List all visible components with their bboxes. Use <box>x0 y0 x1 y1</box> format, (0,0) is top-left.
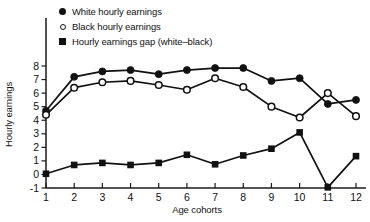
data-point-open-circle <box>71 84 78 91</box>
series-line <box>46 68 356 111</box>
data-point-filled-circle <box>71 73 78 80</box>
data-point-filled-circle <box>99 68 106 75</box>
filled-square-icon <box>57 36 68 47</box>
data-point-filled-square <box>353 153 360 160</box>
data-point-open-circle <box>268 103 275 110</box>
x-tick-label: 11 <box>322 191 333 203</box>
data-point-filled-square <box>99 160 106 167</box>
data-point-filled-square <box>268 145 275 152</box>
data-point-open-circle <box>212 75 219 82</box>
x-tick-label: 8 <box>240 191 246 203</box>
data-point-filled-circle <box>296 75 303 82</box>
data-point-filled-square <box>325 184 332 191</box>
y-tick-label: 6 <box>33 87 39 99</box>
x-tick-label: 5 <box>156 191 162 203</box>
chart-figure: White hourly earnings Black hourly earni… <box>0 0 370 222</box>
data-point-open-circle <box>155 82 162 89</box>
y-tick-label: 0 <box>33 168 39 180</box>
data-point-open-circle <box>296 114 303 121</box>
x-tick-label: 1 <box>43 191 49 203</box>
x-tick-label: 9 <box>269 191 275 203</box>
series-line <box>46 132 356 187</box>
legend-item-white: White hourly earnings <box>57 5 287 18</box>
x-tick-label: 12 <box>350 191 362 203</box>
x-tick-labels: 123456789101112 <box>43 191 362 203</box>
data-point-open-circle <box>184 86 191 93</box>
series-line <box>46 78 356 117</box>
data-point-filled-square <box>127 162 134 169</box>
data-point-filled-square <box>240 152 247 159</box>
y-tick-label: 4 <box>33 114 39 126</box>
data-series <box>43 75 360 121</box>
y-tick-labels: -1012345678 <box>30 60 40 194</box>
y-tick-label: -1 <box>30 182 39 194</box>
data-point-filled-circle <box>353 96 360 103</box>
open-circle-icon <box>57 21 68 32</box>
y-tick-label: 1 <box>33 154 39 166</box>
data-point-open-circle <box>43 112 50 119</box>
data-point-filled-square <box>43 170 50 177</box>
data-point-filled-circle <box>183 67 190 74</box>
data-point-filled-circle <box>240 65 247 72</box>
x-tick-label: 10 <box>294 191 306 203</box>
x-tick-label: 7 <box>212 191 218 203</box>
data-point-filled-square <box>296 129 303 136</box>
data-point-filled-square <box>184 151 191 158</box>
data-point-filled-square <box>155 160 162 167</box>
data-point-filled-circle <box>155 71 162 78</box>
data-point-filled-square <box>71 162 78 169</box>
data-point-open-circle <box>127 78 134 85</box>
data-point-filled-circle <box>324 100 331 107</box>
y-axis-title: Hourly earnings <box>0 65 11 79</box>
y-tick-label: 8 <box>33 60 39 72</box>
y-tick-label: 5 <box>33 100 39 112</box>
x-axis-title: Age cohorts <box>0 204 370 215</box>
x-tick-label: 2 <box>71 191 77 203</box>
data-point-filled-circle <box>212 65 219 72</box>
y-tick-label: 7 <box>33 73 39 85</box>
data-point-open-circle <box>99 79 106 86</box>
filled-circle-icon <box>57 6 68 17</box>
data-point-open-circle <box>325 90 332 97</box>
data-point-open-circle <box>240 84 247 91</box>
chart-legend: White hourly earnings Black hourly earni… <box>57 5 287 50</box>
series-layer <box>43 65 360 191</box>
y-tick-label: 3 <box>33 127 39 139</box>
legend-item-label: Hourly earnings gap (white–black) <box>72 36 212 47</box>
data-point-filled-square <box>212 161 219 168</box>
data-point-filled-circle <box>127 67 134 74</box>
data-point-filled-circle <box>268 77 275 84</box>
data-series <box>43 129 360 191</box>
legend-item-gap: Hourly earnings gap (white–black) <box>57 35 287 48</box>
legend-item-label: Black hourly earnings <box>72 21 161 32</box>
x-tick-label: 3 <box>99 191 105 203</box>
x-tick-label: 6 <box>184 191 190 203</box>
data-point-open-circle <box>353 113 360 120</box>
legend-item-label: White hourly earnings <box>72 6 162 17</box>
x-tick-label: 4 <box>128 191 134 203</box>
legend-item-black: Black hourly earnings <box>57 20 287 33</box>
y-tick-label: 2 <box>33 141 39 153</box>
